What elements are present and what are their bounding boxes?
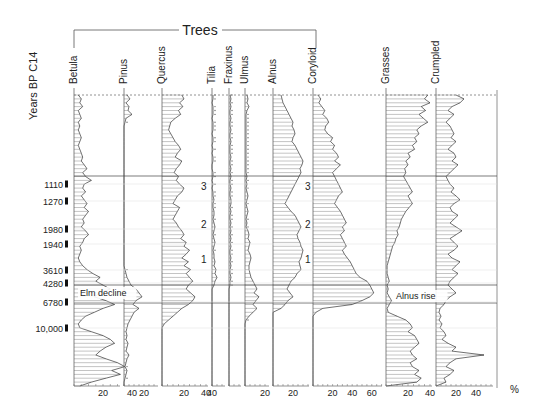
x-axis-tilia: 40: [207, 384, 225, 398]
pollen-diagram: Trees Years BP C14 111012701980194036104…: [0, 0, 538, 420]
age-marker: [65, 198, 68, 205]
tick-label: 20: [139, 388, 149, 398]
x-axis-grasses: 2040: [386, 384, 435, 398]
profile-crumpled: [436, 88, 484, 386]
taxon-label: Alnus: [267, 59, 278, 84]
x-axes: 204020204040202020406020402040: [74, 384, 493, 398]
tick-label: 20: [403, 388, 413, 398]
x-axis-crumpled: 2040: [436, 384, 493, 398]
taxon-label: Betula: [68, 55, 79, 84]
pollen-profiles: [74, 88, 484, 386]
tick-label: 40: [347, 388, 357, 398]
x-axis-coryloid: 204060: [313, 384, 382, 398]
x-axis-quercus: 2040: [162, 384, 211, 398]
x-axis-fraxinus: [229, 384, 241, 386]
x-axis-ulmus: 20: [245, 384, 270, 398]
chart-title: Trees: [182, 22, 217, 38]
annotation: 2: [201, 219, 207, 230]
tick-label: 40: [207, 388, 217, 398]
taxon-label: Tilia: [206, 66, 217, 84]
age-label: 6780: [43, 298, 63, 308]
age-labels: 111012701980194036104280678010,000: [35, 180, 68, 334]
age-label: 3610: [43, 266, 63, 276]
taxon-label: Crumpled: [430, 41, 441, 84]
percent-label: %: [510, 384, 519, 395]
annotations: Elm declineAlnus rise321321: [78, 181, 448, 302]
tick-label: 60: [367, 388, 377, 398]
annotation: Alnus rise: [396, 291, 436, 301]
profile-tilia: [212, 88, 217, 386]
profile-alnus: [273, 88, 303, 386]
taxon-label: Quercus: [156, 46, 167, 84]
annotation: 1: [305, 254, 311, 265]
age-marker: [65, 181, 68, 188]
age-marker: [65, 280, 68, 287]
profile-betula: [74, 88, 125, 386]
age-marker: [65, 325, 68, 332]
age-label: 4280: [43, 279, 63, 289]
tick-label: 40: [471, 388, 481, 398]
tick-label: 40: [127, 388, 137, 398]
profile-pinus: [124, 88, 142, 386]
taxon-label: Coryloid: [307, 47, 318, 84]
profile-quercus: [162, 88, 195, 386]
age-label: 1270: [43, 197, 63, 207]
age-label: 1110: [44, 180, 63, 190]
annotation: 3: [201, 181, 207, 192]
age-label: 1940: [43, 240, 63, 250]
zone-lines: [74, 176, 497, 328]
profile-ulmus: [245, 88, 259, 386]
tick-label: 20: [451, 388, 461, 398]
age-marker: [65, 299, 68, 306]
y-axis-title: Years BP C14: [27, 52, 39, 121]
annotation: 1: [201, 254, 207, 265]
age-label: 10,000: [35, 324, 63, 334]
age-label: 1980: [43, 225, 63, 235]
annotation: 2: [305, 219, 311, 230]
tick-label: 20: [288, 388, 298, 398]
taxon-label: Ulmus: [239, 56, 250, 84]
age-marker: [65, 226, 68, 233]
profile-grasses: [386, 88, 430, 386]
age-marker: [65, 241, 68, 248]
tick-label: 20: [98, 388, 108, 398]
age-marker: [65, 267, 68, 274]
annotation: 3: [305, 181, 311, 192]
tick-label: 20: [260, 388, 270, 398]
profile-coryloid: [313, 88, 374, 386]
tick-label: 20: [179, 388, 189, 398]
profile-fraxinus: [229, 88, 233, 386]
annotation: Elm decline: [80, 288, 127, 298]
tick-label: 20: [328, 388, 338, 398]
taxon-labels: BetulaPinusQuercusTiliaFraxinusUlmusAlnu…: [68, 41, 441, 84]
x-axis-alnus: 20: [273, 384, 309, 398]
taxon-label: Grasses: [380, 47, 391, 84]
taxon-label: Fraxinus: [223, 46, 234, 84]
taxon-label: Pinus: [118, 59, 129, 84]
tick-label: 40: [425, 388, 435, 398]
